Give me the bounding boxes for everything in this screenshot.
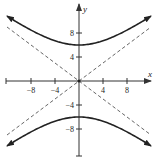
y-axis-label: y (82, 4, 87, 14)
x-tick-label: −4 (51, 86, 60, 95)
x-tick-label: 8 (125, 86, 129, 95)
origin-point (77, 79, 80, 82)
y-tick-label: 4 (70, 53, 74, 62)
y-tick-label: 8 (70, 29, 74, 38)
axis-labels: −8−44884−4−8xy (27, 4, 152, 134)
y-tick-label: −4 (65, 101, 74, 110)
hyperbola-chart: −8−44884−4−8xy (0, 0, 157, 163)
x-tick-label: −8 (27, 86, 36, 95)
x-axis-label: x (147, 69, 152, 79)
y-tick-label: −8 (65, 125, 74, 134)
x-tick-label: 4 (101, 86, 105, 95)
